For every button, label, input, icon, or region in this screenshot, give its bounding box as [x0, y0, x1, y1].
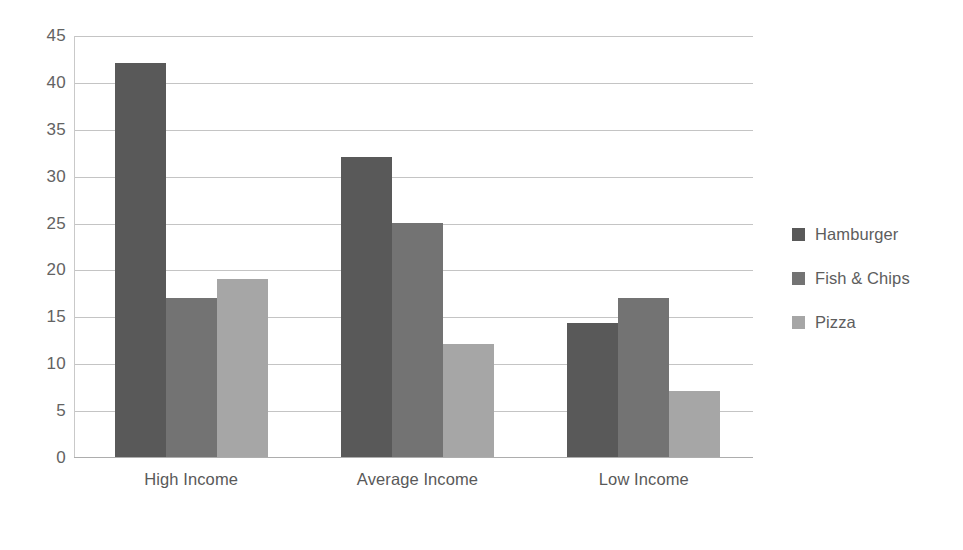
x-axis-category-label: High Income [144, 470, 238, 489]
y-axis-tick-label: 15 [20, 307, 66, 327]
legend-item-label: Hamburger [815, 225, 898, 244]
legend-swatch-icon [792, 272, 805, 285]
bar[interactable] [115, 63, 166, 457]
gridline [74, 83, 753, 84]
x-axis-line [74, 457, 753, 458]
y-axis-tick-label: 40 [20, 73, 66, 93]
x-axis-category-label: Low Income [599, 470, 689, 489]
chart-legend: HamburgerFish & ChipsPizza [792, 212, 962, 344]
legend-swatch-icon [792, 316, 805, 329]
plot-area [74, 36, 753, 458]
bar[interactable] [217, 279, 268, 457]
legend-item[interactable]: Hamburger [792, 212, 962, 256]
gridline [74, 177, 753, 178]
x-axis-category-labels: High IncomeAverage IncomeLow Income [74, 470, 753, 500]
bar[interactable] [341, 157, 392, 457]
x-axis-category-label: Average Income [357, 470, 478, 489]
legend-item[interactable]: Pizza [792, 300, 962, 344]
y-axis-tick-label: 0 [20, 448, 66, 468]
chart-title [95, 0, 715, 5]
y-axis-line [74, 36, 75, 458]
bar[interactable] [567, 323, 618, 457]
y-axis-tick-label: 10 [20, 354, 66, 374]
bar-chart: 051015202530354045 High IncomeAverage In… [0, 0, 963, 550]
y-axis-tick-label: 20 [20, 260, 66, 280]
legend-item[interactable]: Fish & Chips [792, 256, 962, 300]
bar[interactable] [392, 223, 443, 457]
gridline [74, 36, 753, 37]
y-axis-tick-label: 5 [20, 401, 66, 421]
bar[interactable] [166, 298, 217, 457]
y-axis-tick-label: 30 [20, 167, 66, 187]
y-axis-tick-label: 25 [20, 214, 66, 234]
bar[interactable] [669, 391, 720, 457]
y-axis-tick-label: 45 [20, 26, 66, 46]
legend-item-label: Pizza [815, 313, 856, 332]
legend-item-label: Fish & Chips [815, 269, 910, 288]
gridline [74, 130, 753, 131]
legend-swatch-icon [792, 228, 805, 241]
y-axis-tick-label: 35 [20, 120, 66, 140]
y-axis-tick-labels: 051015202530354045 [14, 36, 66, 458]
bar[interactable] [443, 344, 494, 457]
bar[interactable] [618, 298, 669, 457]
